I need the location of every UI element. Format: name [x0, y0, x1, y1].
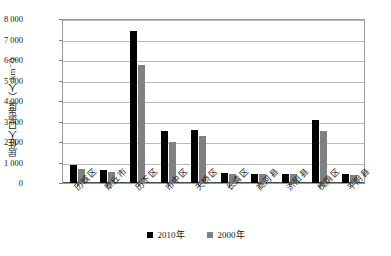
bar-2010年-历下区[interactable] [130, 31, 137, 183]
bar-group [342, 19, 358, 183]
bar-group [312, 19, 328, 183]
y-axis-tick-mark [59, 19, 62, 20]
bar-2010年-天桥区[interactable] [191, 130, 198, 184]
y-axis-tick-mark [59, 40, 62, 41]
gray-square-marker-icon [207, 232, 213, 238]
y-axis-tick-label: 3 000 [0, 118, 23, 126]
y-axis-tick-mark [59, 122, 62, 123]
population-density-bar-chart: 居住人口密度/（人·km⁻²） 历城区章丘市历下区市中区天桥区长清区商河县济阳县… [0, 0, 391, 256]
y-axis-tick-label: 2 000 [0, 138, 23, 146]
bar-group [282, 19, 298, 183]
bar-2010年-槐荫区[interactable] [312, 120, 319, 183]
legend-item-2000[interactable]: 2000年 [207, 230, 245, 240]
y-axis-tick-label: 4 000 [0, 97, 23, 105]
bar-group [191, 19, 207, 183]
legend-label-2000: 2000年 [218, 230, 245, 240]
y-axis-tick-mark [59, 163, 62, 164]
y-axis-tick-mark [59, 183, 62, 184]
bar-group [70, 19, 86, 183]
bar-2010年-市中区[interactable] [161, 131, 168, 183]
y-axis-tick-mark [59, 60, 62, 61]
bar-group [161, 19, 177, 183]
black-square-marker-icon [147, 232, 153, 238]
y-axis-tick-label: 7 000 [0, 36, 23, 44]
y-axis-tick-mark [59, 101, 62, 102]
bar-group [251, 19, 267, 183]
legend-label-2010: 2010年 [158, 230, 185, 240]
y-axis-tick-mark [59, 142, 62, 143]
y-axis-tick-label: 5 000 [0, 77, 23, 85]
y-axis-tick-label: 6 000 [0, 56, 23, 64]
y-axis-tick-label: 1 000 [0, 159, 23, 167]
legend-item-2010[interactable]: 2010年 [147, 230, 185, 240]
bar-2000年-历下区[interactable] [138, 65, 145, 183]
bar-group [221, 19, 237, 183]
y-axis-tick-mark [59, 81, 62, 82]
bar-group [130, 19, 146, 183]
chart-legend: 2010年 2000年 [0, 230, 391, 240]
bar-group [100, 19, 116, 183]
y-axis-tick-label: 0 [0, 179, 23, 187]
bars-layer [62, 19, 365, 183]
x-axis-labels: 历城区章丘市历下区市中区天桥区长清区商河县济阳县槐荫区平阴县 [62, 186, 365, 230]
y-axis-tick-label: 8 000 [0, 15, 23, 23]
